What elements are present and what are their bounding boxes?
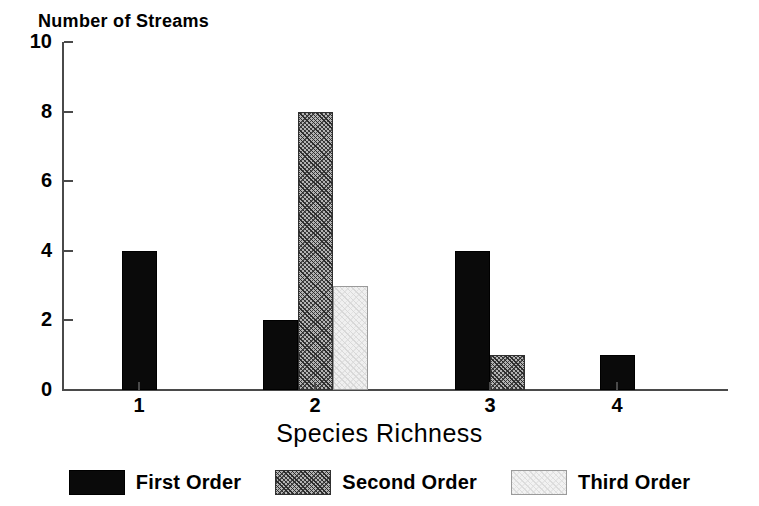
legend-item: First Order <box>69 470 242 495</box>
y-axis-tick <box>64 319 73 321</box>
y-axis-line <box>62 42 64 391</box>
y-axis-tick-label: 8 <box>8 101 52 121</box>
y-axis-tick <box>64 180 73 182</box>
x-axis-tick-label: 3 <box>470 394 510 417</box>
y-axis-tick-label: 4 <box>8 240 52 260</box>
y-axis-tick <box>64 41 73 43</box>
x-axis-tick-label: 1 <box>119 394 159 417</box>
bar-second-order-2 <box>298 112 333 390</box>
y-axis-tick-label: 2 <box>8 309 52 329</box>
x-axis-tick <box>616 382 618 390</box>
x-axis-tick-label: 4 <box>597 394 637 417</box>
legend-label: Second Order <box>342 471 477 494</box>
legend-swatch-third-order <box>511 470 567 495</box>
x-axis-tick <box>489 382 491 390</box>
y-axis-tick-label: 0 <box>8 379 52 399</box>
bar-first-order-2 <box>263 320 298 390</box>
y-axis-tick-label: 6 <box>8 170 52 190</box>
legend-item: Third Order <box>511 470 690 495</box>
bar-first-order-1 <box>122 251 157 390</box>
bar-first-order-3 <box>455 251 490 390</box>
legend-label: First Order <box>136 471 242 494</box>
legend-swatch-second-order <box>275 470 331 495</box>
y-axis-tick <box>64 250 73 252</box>
y-axis-title: Number of Streams <box>38 11 209 32</box>
bar-second-order-3 <box>490 355 525 390</box>
y-axis-tick <box>64 111 73 113</box>
x-axis-tick <box>314 382 316 390</box>
bar-chart-figure: Number of Streams 0246810 1234 Species R… <box>0 0 759 506</box>
y-axis-tick-label: 10 <box>8 31 52 51</box>
legend-item: Second Order <box>275 470 477 495</box>
legend-label: Third Order <box>578 471 690 494</box>
x-axis-tick <box>138 382 140 390</box>
x-axis-title: Species Richness <box>0 419 759 448</box>
bar-third-order-2 <box>333 286 368 390</box>
legend-swatch-first-order <box>69 470 125 495</box>
x-axis-tick-label: 2 <box>295 394 335 417</box>
chart-legend: First OrderSecond OrderThird Order <box>0 465 759 499</box>
